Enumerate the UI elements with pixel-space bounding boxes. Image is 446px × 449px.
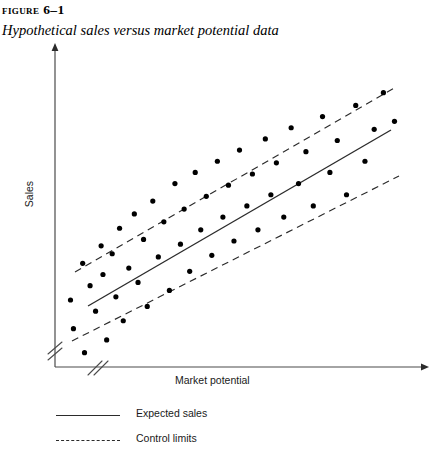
scatter-point [198,227,203,232]
scatter-point [231,238,236,243]
scatter-point [104,337,109,342]
scatter-point [220,214,225,219]
scatter-point [320,114,325,119]
x-axis-title: Market potential [175,374,250,386]
control-limit-upper-line [75,87,396,272]
scatter-point [303,149,308,154]
chart-legend: Expected sales Control limits [0,398,446,449]
scatter-point [193,170,198,175]
scatter-point [135,280,140,285]
chart-plot-area: Sales Market potential [0,0,446,400]
scatter-point [145,304,150,309]
scatter-point [80,261,85,266]
scatter-point [289,125,294,130]
scatter-point [226,183,231,188]
scatter-point [113,294,118,299]
y-axis-arrowhead [52,43,59,51]
scatter-point [87,283,92,288]
scatter-point [296,181,301,186]
x-axis-arrowhead [421,364,429,371]
legend-label-control-limits: Control limits [136,432,197,444]
control-limit-lines [72,87,399,341]
scatter-point [204,194,209,199]
scatter-point [215,159,220,164]
x-axis-break-mark-1 [88,361,102,375]
scatter-point [182,206,187,211]
legend-swatch-dashed-line [56,440,120,441]
scatter-point [82,350,87,355]
scatter-point [161,219,166,224]
scatter-point [167,288,172,293]
scatter-point [392,119,397,124]
scatter-point [117,226,122,231]
expected-sales-line [88,130,391,306]
scatter-point [250,171,255,176]
scatter-point [362,159,367,164]
legend-label-expected-sales: Expected sales [136,407,207,419]
scatter-point [99,243,104,248]
scatter-point [372,127,377,132]
scatter-point [71,326,76,331]
scatter-point [353,103,358,108]
scatter-point [268,192,273,197]
control-limit-lower-line [72,176,399,341]
scatter-point [100,272,105,277]
y-axis-title: Sales [23,164,35,224]
scatter-point [110,251,115,256]
scatter-point [244,203,249,208]
scatter-point [344,192,349,197]
chart-axes [52,43,429,370]
scatter-point [187,269,192,274]
scatter-point [281,214,286,219]
scatter-point [274,160,279,165]
scatter-point [335,138,340,143]
scatter-point [93,309,98,314]
x-axis-break-mark-2 [94,361,108,375]
scatter-chart-svg [0,0,446,400]
scatter-point [141,237,146,242]
scatter-point [172,181,177,186]
scatter-point [209,253,214,258]
scatter-point [156,254,161,259]
legend-swatch-solid-line [56,415,120,416]
scatter-point [132,211,137,216]
scatter-point [263,136,268,141]
scatter-point [126,266,131,271]
scatter-point [68,297,73,302]
scatter-point [381,90,386,95]
scatter-point [150,199,155,204]
scatter-point [311,203,316,208]
axis-break-marks [48,342,108,375]
scatter-point [255,227,260,232]
scatter-point [327,170,332,175]
scatter-point [121,318,126,323]
scatter-point [237,147,242,152]
scatter-point [178,242,183,247]
